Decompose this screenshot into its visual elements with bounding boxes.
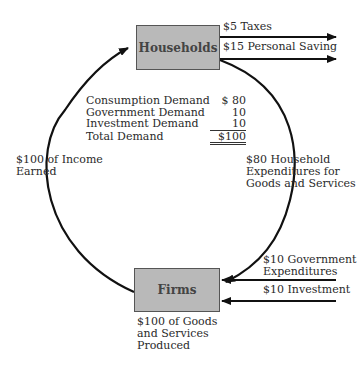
row-label: Total Demand [86,130,210,144]
expend-line3: Goods and Services [246,178,356,190]
goods-line3: Produced [137,340,217,352]
row-label: Consumption Demand [86,95,210,107]
demand-table: Consumption Demand$ 80 Government Demand… [86,95,246,145]
row-label: Investment Demand [86,118,210,130]
household-expenditures-label: $80 Household Expenditures for Goods and… [246,154,356,190]
table-row: Total Demand$100 [86,130,246,144]
investment-label: $10 Investment [263,284,350,296]
firms-box: Firms [134,268,220,312]
table-row: Investment Demand10 [86,118,246,130]
gov-line2: Expenditures [263,266,356,278]
income-line2: Earned [16,166,103,178]
goods-produced-label: $100 of Goods and Services Produced [137,316,217,352]
table-row: Consumption Demand$ 80 [86,95,246,107]
personal-saving-label: $15 Personal Saving [223,41,337,53]
government-expenditures-label: $10 Government Expenditures [263,254,356,278]
households-box: Households [136,25,220,70]
row-value: $ 80 [210,95,246,107]
taxes-label: $5 Taxes [223,21,272,33]
row-value: 10 [210,118,246,130]
total-value: $100 [210,130,246,144]
income-earned-label: $100 of Income Earned [16,154,103,178]
